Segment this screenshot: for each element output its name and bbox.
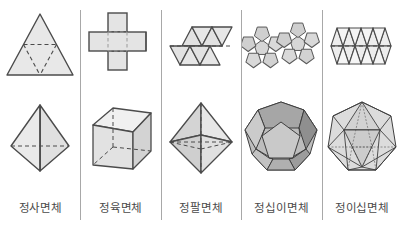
- label-cell-dodecahedron: 정십이면체: [241, 184, 321, 230]
- tetrahedron-solid-icon: [7, 100, 73, 176]
- octahedron-solid-cell: [161, 92, 241, 184]
- tetrahedron-net-cell: [0, 0, 80, 92]
- octahedron-net-cell: [161, 0, 241, 92]
- tetrahedron-solid-cell: [0, 92, 80, 184]
- label-dodecahedron: 정십이면체: [254, 199, 308, 215]
- label-cell-cube: 정육면체: [80, 184, 160, 230]
- dodecahedron-net-icon: [242, 17, 320, 75]
- label-octahedron: 정팔면체: [179, 199, 222, 215]
- dodecahedron-solid-cell: [241, 92, 321, 184]
- label-tetrahedron: 정사면체: [19, 199, 62, 215]
- cube-net-cell: [80, 0, 160, 92]
- icosahedron-solid-icon: [324, 99, 400, 177]
- dodecahedron-solid-icon: [243, 99, 319, 177]
- octahedron-solid-icon: [166, 98, 236, 178]
- column-divider-3: [241, 10, 242, 220]
- icosahedron-net-icon: [326, 17, 398, 75]
- label-icosahedron: 정이십면체: [335, 199, 389, 215]
- cube-net-icon: [83, 8, 159, 84]
- tetrahedron-net-icon: [4, 9, 76, 83]
- cube-solid-icon: [85, 101, 157, 175]
- cube-solid-cell: [80, 92, 160, 184]
- icosahedron-solid-cell: [322, 92, 402, 184]
- column-divider-1: [80, 10, 81, 220]
- label-cell-octahedron: 정팔면체: [161, 184, 241, 230]
- dodecahedron-net-cell: [241, 0, 321, 92]
- column-divider-4: [322, 10, 323, 220]
- platonic-solids-figure: 정사면체 정육면체 정팔면체 정십이면체 정이십면체: [0, 0, 402, 230]
- label-cube: 정육면체: [99, 199, 142, 215]
- solids-grid: 정사면체 정육면체 정팔면체 정십이면체 정이십면체: [0, 0, 402, 230]
- label-cell-icosahedron: 정이십면체: [322, 184, 402, 230]
- label-cell-tetrahedron: 정사면체: [0, 184, 80, 230]
- octahedron-net-icon: [162, 15, 240, 77]
- icosahedron-net-cell: [322, 0, 402, 92]
- column-divider-2: [161, 10, 162, 220]
